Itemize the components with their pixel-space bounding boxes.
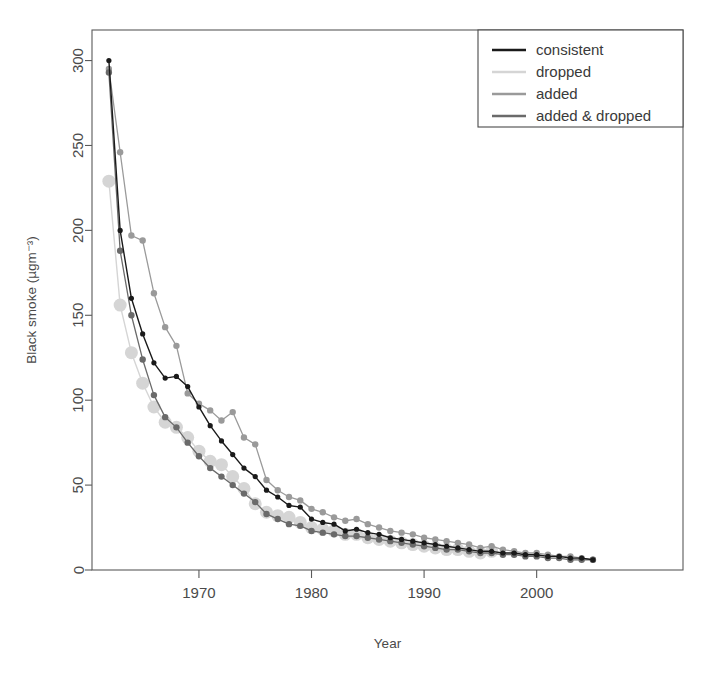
legend-label: added & dropped [536, 107, 651, 124]
line-chart: 0501001502002503001970198019902000YearBl… [0, 0, 710, 680]
data-point [443, 538, 449, 544]
data-point [117, 149, 123, 155]
data-point [275, 516, 281, 522]
data-point [376, 536, 382, 542]
data-point [331, 531, 337, 537]
y-axis-title: Black smoke (µgm⁻³) [24, 236, 39, 363]
data-point [308, 506, 314, 512]
legend: consistentdroppedaddedadded & dropped [478, 30, 683, 127]
data-point [230, 482, 236, 488]
data-point [455, 545, 460, 550]
data-point [286, 503, 291, 508]
data-point [118, 228, 123, 233]
data-point [185, 384, 190, 389]
data-point [241, 466, 246, 471]
data-point [151, 360, 156, 365]
data-point [331, 514, 337, 520]
data-point [252, 499, 258, 505]
data-point [253, 474, 258, 479]
data-point [410, 539, 415, 544]
data-point [398, 529, 404, 535]
data-point [444, 544, 449, 549]
series-line [109, 72, 593, 559]
data-point [264, 488, 269, 493]
y-tick-label: 300 [70, 48, 87, 73]
y-tick-label: 50 [70, 477, 87, 494]
data-point [147, 400, 160, 413]
data-point [590, 557, 595, 562]
y-tick-label: 200 [70, 218, 87, 243]
series-added [106, 66, 596, 563]
data-point [488, 543, 494, 549]
data-point [275, 494, 280, 499]
data-point [218, 473, 224, 479]
data-point [286, 494, 292, 500]
data-point [208, 423, 213, 428]
data-point [353, 533, 359, 539]
data-point [196, 404, 201, 409]
data-point [297, 523, 303, 529]
data-point [354, 527, 359, 532]
series-line [109, 69, 593, 560]
data-point [421, 535, 427, 541]
data-point [128, 312, 134, 318]
data-point [534, 552, 539, 557]
data-point [433, 542, 438, 547]
data-point [489, 549, 494, 554]
data-point [128, 232, 134, 238]
data-point [523, 552, 528, 557]
data-point [207, 407, 213, 413]
x-tick-label: 1980 [295, 584, 328, 601]
data-point [241, 434, 247, 440]
data-point [320, 529, 326, 535]
data-point [286, 521, 292, 527]
series-consistent [106, 58, 595, 562]
data-point [173, 343, 179, 349]
x-axis: 1970198019902000 [182, 570, 553, 601]
data-point [139, 356, 145, 362]
data-point [387, 528, 393, 534]
data-point [467, 547, 472, 552]
legend-label: dropped [536, 63, 591, 80]
data-point [365, 535, 371, 541]
data-point [579, 556, 584, 561]
data-point [230, 409, 236, 415]
y-tick-label: 0 [70, 566, 87, 574]
data-point [399, 537, 404, 542]
data-point [342, 518, 348, 524]
x-tick-label: 2000 [520, 584, 553, 601]
x-tick-label: 1970 [182, 584, 215, 601]
data-point [478, 549, 483, 554]
data-point [263, 477, 269, 483]
data-point [125, 346, 138, 359]
data-point [376, 532, 381, 537]
data-point [136, 377, 149, 390]
data-point [343, 528, 348, 533]
data-point [241, 490, 247, 496]
data-point [106, 58, 111, 63]
data-point [151, 392, 157, 398]
chart-figure: 0501001502002503001970198019902000YearBl… [0, 0, 710, 680]
data-point [512, 550, 517, 555]
data-point [342, 533, 348, 539]
data-point [466, 541, 472, 547]
data-point [263, 511, 269, 517]
data-point [140, 331, 145, 336]
data-point [500, 550, 505, 555]
data-point [102, 175, 115, 188]
data-point [117, 248, 123, 254]
data-point [114, 299, 127, 312]
data-point [174, 374, 179, 379]
data-point [309, 516, 314, 521]
x-tick-label: 1990 [407, 584, 440, 601]
data-point [275, 487, 281, 493]
data-point [215, 458, 228, 471]
data-point [388, 535, 393, 540]
data-point [365, 521, 371, 527]
y-tick-label: 150 [70, 303, 87, 328]
data-point [219, 438, 224, 443]
data-point [163, 376, 168, 381]
data-point [184, 439, 190, 445]
y-tick-label: 100 [70, 388, 87, 413]
data-point [129, 296, 134, 301]
